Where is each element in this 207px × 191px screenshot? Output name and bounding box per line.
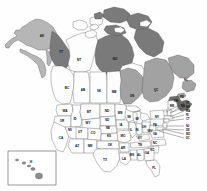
hawaii-molokai xyxy=(27,165,31,167)
leader-label-NH: NH xyxy=(186,105,190,109)
label-YT: YT xyxy=(59,50,63,54)
region-SK[interactable] xyxy=(90,72,107,103)
label-MI: MI xyxy=(135,117,138,121)
region-NU-isl-a xyxy=(94,12,104,19)
label-WA: WA xyxy=(63,109,69,113)
label-ME: ME xyxy=(170,104,174,108)
region-IA[interactable] xyxy=(116,120,129,129)
leader-label-DE: DE xyxy=(186,128,190,132)
label-NS: NS xyxy=(181,104,185,108)
us-regions xyxy=(51,100,178,177)
label-MO: MO xyxy=(121,134,126,138)
north-america-map: HI AKYTNTNUBCABSKMBONQCNLNBNSPE WAORIDMT… xyxy=(0,0,207,191)
leader-label-MD: MD xyxy=(186,132,190,136)
region-AK-aleutians xyxy=(20,49,46,78)
label-WI: WI xyxy=(127,115,131,119)
hawaii-bigisland xyxy=(35,173,42,179)
map-canvas: HI AKYTNTNUBCABSKMBONQCNLNBNSPE WAORIDMT… xyxy=(0,0,207,191)
region-MD-shape[interactable] xyxy=(157,127,164,130)
hawaii-inset[interactable]: HI xyxy=(8,151,56,185)
label-AL: AL xyxy=(137,153,141,157)
region-NT-island3 xyxy=(85,30,97,38)
label-IL: IL xyxy=(130,128,133,132)
label-PE: PE xyxy=(180,95,184,99)
canada-regions xyxy=(5,7,196,111)
label-FL: FL xyxy=(152,166,156,170)
label-UT: UT xyxy=(78,130,82,134)
leader-label-text: VTNHMARICTNJDEMDDC xyxy=(186,101,190,140)
region-NT[interactable] xyxy=(66,32,98,72)
region-NH-shape[interactable] xyxy=(167,109,171,116)
inset-label-HI: HI xyxy=(30,160,33,164)
label-MT: MT xyxy=(87,110,91,114)
leader-label-VT: VT xyxy=(186,101,190,105)
leader-label-MA: MA xyxy=(186,109,190,113)
hawaii-kauai xyxy=(15,159,18,161)
label-MS: MS xyxy=(130,153,134,157)
label-NM: NM xyxy=(88,144,93,148)
leader-label-NJ: NJ xyxy=(186,124,190,128)
hawaii-oahu xyxy=(22,162,26,164)
leader-label-RI: RI xyxy=(186,113,189,117)
leader-label-DC: DC xyxy=(186,136,190,140)
label-NE: NE xyxy=(106,126,110,130)
hawaii-maui xyxy=(31,168,35,171)
region-NU-baffin xyxy=(134,28,164,57)
region-CT-shape[interactable] xyxy=(164,119,169,122)
label-AZ: AZ xyxy=(75,144,79,148)
region-VT-shape[interactable] xyxy=(164,110,167,116)
region-BC[interactable] xyxy=(51,66,74,104)
label-NT: NT xyxy=(77,58,81,62)
region-NT-islands xyxy=(73,20,88,30)
label-KS: KS xyxy=(107,134,111,138)
region-NU-arctic-1 xyxy=(103,7,130,23)
region-MB[interactable] xyxy=(107,71,122,103)
label-NL: NL xyxy=(184,78,188,82)
leader-label-CT: CT xyxy=(186,117,190,121)
label-CO: CO xyxy=(91,131,96,135)
region-QC[interactable] xyxy=(142,58,174,102)
